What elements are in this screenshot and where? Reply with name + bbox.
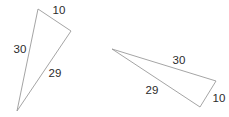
triangles-svg-canvas: 10 30 29 30 29 10 (0, 0, 229, 117)
left-triangle (17, 9, 71, 111)
left-triangle-side-label-10: 10 (53, 4, 66, 16)
right-triangle-side-label-10: 10 (213, 92, 226, 104)
right-triangle-side-label-30: 30 (173, 54, 186, 66)
left-triangle-side-label-29: 29 (49, 67, 62, 79)
right-triangle (112, 49, 216, 107)
left-triangle-side-label-30: 30 (14, 43, 27, 55)
right-triangle-side-label-29: 29 (146, 84, 159, 96)
geometry-figure: 10 30 29 30 29 10 (0, 0, 229, 117)
